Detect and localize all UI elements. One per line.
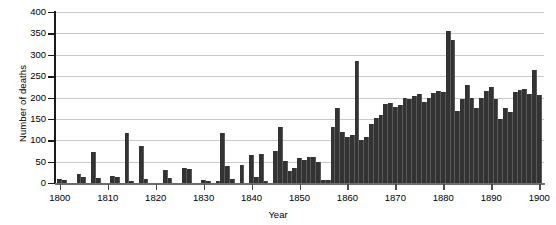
x-tick-label: 1840 bbox=[232, 192, 272, 203]
chart-container: Number of deaths Year 050100150200250300… bbox=[0, 0, 556, 225]
bar bbox=[240, 165, 245, 183]
y-tick-label: 150 bbox=[2, 114, 46, 124]
bar bbox=[259, 154, 264, 183]
y-tick-mark bbox=[48, 55, 54, 56]
x-tick-mark bbox=[252, 184, 253, 190]
x-tick-mark bbox=[491, 184, 492, 190]
bar bbox=[537, 95, 542, 183]
y-tick-label: 50 bbox=[2, 157, 46, 167]
y-tick-mark bbox=[48, 98, 54, 99]
bar bbox=[187, 169, 192, 183]
y-tick-label: 300 bbox=[2, 50, 46, 60]
x-tick-mark bbox=[108, 184, 109, 190]
y-tick-label: 350 bbox=[2, 28, 46, 38]
x-tick-label: 1800 bbox=[40, 192, 80, 203]
x-tick-label: 1860 bbox=[327, 192, 367, 203]
y-tick-label: 250 bbox=[2, 71, 46, 81]
x-tick-label: 1870 bbox=[375, 192, 415, 203]
bar-series bbox=[55, 12, 544, 183]
x-tick-label: 1880 bbox=[423, 192, 463, 203]
y-tick-label: 100 bbox=[2, 135, 46, 145]
x-tick-mark bbox=[156, 184, 157, 190]
x-tick-mark bbox=[443, 184, 444, 190]
x-tick-label: 1830 bbox=[184, 192, 224, 203]
x-tick-mark bbox=[60, 184, 61, 190]
y-tick-label: 0 bbox=[2, 178, 46, 188]
y-tick-mark bbox=[48, 183, 54, 184]
x-tick-mark bbox=[395, 184, 396, 190]
x-tick-mark bbox=[300, 184, 301, 190]
y-tick-label: 400 bbox=[2, 7, 46, 17]
bar bbox=[125, 133, 130, 183]
y-tick-mark bbox=[48, 140, 54, 141]
x-tick-mark bbox=[204, 184, 205, 190]
y-tick-mark bbox=[48, 33, 54, 34]
y-tick-mark bbox=[48, 12, 54, 13]
x-axis-title: Year bbox=[0, 209, 556, 220]
y-tick-label: 200 bbox=[2, 93, 46, 103]
x-tick-label: 1810 bbox=[88, 192, 128, 203]
x-tick-label: 1890 bbox=[471, 192, 511, 203]
x-tick-label: 1820 bbox=[136, 192, 176, 203]
y-tick-mark bbox=[48, 76, 54, 77]
y-tick-mark bbox=[48, 119, 54, 120]
x-tick-mark bbox=[539, 184, 540, 190]
y-axis-line bbox=[54, 11, 56, 184]
x-tick-mark bbox=[347, 184, 348, 190]
x-tick-label: 1900 bbox=[519, 192, 556, 203]
y-tick-mark bbox=[48, 162, 54, 163]
bar bbox=[139, 146, 144, 183]
x-tick-label: 1850 bbox=[280, 192, 320, 203]
